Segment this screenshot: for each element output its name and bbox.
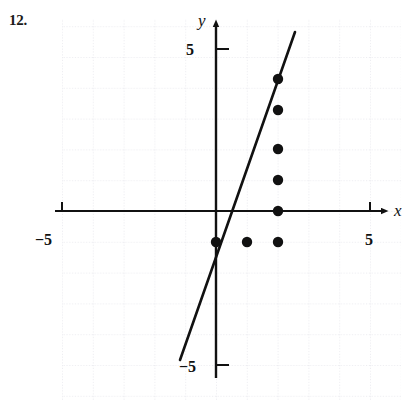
data-point [273, 144, 283, 154]
coordinate-plane-graph: −5 5 5 −5 y x [0, 0, 419, 407]
data-point [242, 237, 252, 247]
y-axis-label: y [196, 11, 206, 30]
data-point [273, 74, 283, 84]
x-tick-label-neg5: −5 [35, 231, 52, 248]
x-tick-label-pos5: 5 [365, 231, 373, 248]
worksheet-page: 12. −5 5 5 −5 y x [0, 0, 419, 407]
data-point [273, 206, 283, 216]
data-point [273, 175, 283, 185]
x-axis-label: x [393, 201, 402, 220]
y-tick-label-pos5: 5 [186, 41, 194, 58]
data-point [273, 237, 283, 247]
y-tick-label-neg5: −5 [179, 358, 196, 375]
data-point [273, 105, 283, 115]
data-point [211, 237, 221, 247]
